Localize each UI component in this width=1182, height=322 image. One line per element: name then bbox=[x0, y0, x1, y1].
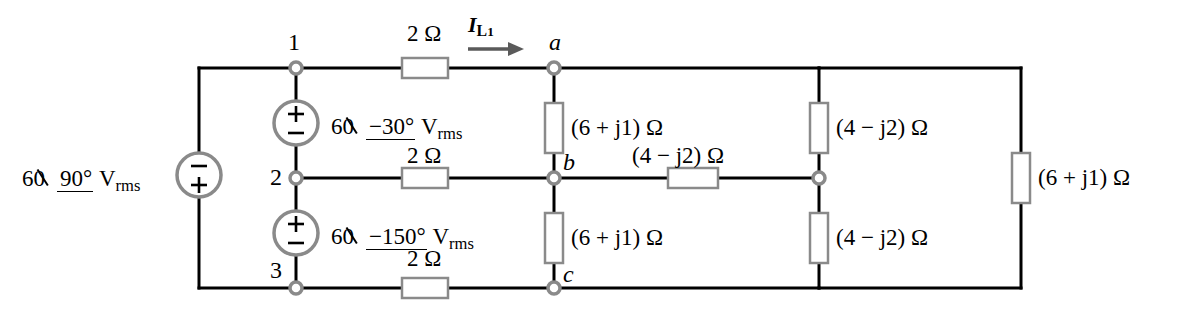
resistor-imp-far-right[interactable] bbox=[1012, 153, 1030, 203]
source-n12-angle: −30° bbox=[366, 115, 415, 140]
node-dot-c[interactable] bbox=[548, 282, 560, 294]
label-imp-far-right-text: (6 + j1) Ω bbox=[1038, 165, 1130, 190]
label-imp-right-bot-text: (4 − j2) Ω bbox=[836, 225, 928, 250]
resistor-imp-ab[interactable] bbox=[545, 103, 563, 153]
label-line-res-top-text: 2 Ω bbox=[407, 21, 441, 46]
label-imp-b-right-text: (4 − j2) Ω bbox=[632, 143, 724, 168]
label-line-res-mid: 2 Ω bbox=[407, 144, 441, 167]
source-n23-unit-sub: rms bbox=[449, 234, 474, 253]
source-n23-angle: −150° bbox=[366, 225, 427, 250]
current-arrow-il1 bbox=[468, 42, 524, 56]
label-imp-ab-text: (6 + j1) Ω bbox=[571, 115, 663, 140]
node-dot-1[interactable] bbox=[290, 62, 302, 74]
label-imp-bc-text: (6 + j1) Ω bbox=[571, 225, 663, 250]
source-n12-unit-sub: rms bbox=[438, 124, 463, 143]
angle-slash-icon-left bbox=[45, 163, 57, 186]
node-label-a: a bbox=[549, 30, 561, 54]
node-dot-right-mid[interactable] bbox=[813, 172, 825, 184]
current-arrow-head bbox=[508, 42, 524, 56]
node-dot-3[interactable] bbox=[290, 282, 302, 294]
node-label-b: b bbox=[563, 150, 575, 174]
label-source-left: 6090° Vrms bbox=[22, 163, 140, 194]
node-dot-2[interactable] bbox=[290, 172, 302, 184]
node-label-1: 1 bbox=[288, 30, 300, 54]
resistor-imp-right-bot[interactable] bbox=[810, 213, 828, 263]
node-label-c: c bbox=[563, 262, 574, 286]
source-n12-unit: V bbox=[421, 114, 438, 139]
node-label-2: 2 bbox=[270, 165, 282, 189]
source-left-unit-sub: rms bbox=[116, 176, 141, 195]
node-label-3: 3 bbox=[270, 258, 282, 282]
current-subscript2: 1 bbox=[487, 24, 494, 39]
angle-slash-icon-n12 bbox=[354, 111, 366, 134]
resistor-line-mid[interactable] bbox=[402, 168, 448, 188]
source-left-unit: V bbox=[99, 166, 116, 191]
label-source-n12: 60−30° Vrms bbox=[331, 111, 462, 142]
label-imp-right-top: (4 − j2) Ω bbox=[836, 116, 928, 139]
resistor-line-bot[interactable] bbox=[402, 278, 448, 298]
label-imp-ab: (6 + j1) Ω bbox=[571, 116, 663, 139]
circuit-diagram-canvas: 1 2 3 a b c 2 Ω 2 Ω 2 Ω IL1 6090° Vrms 6… bbox=[0, 0, 1182, 322]
wire-group bbox=[199, 68, 1021, 288]
label-line-res-top: 2 Ω bbox=[407, 22, 441, 45]
label-source-n23: 60−150° Vrms bbox=[331, 221, 474, 252]
angle-slash-icon-n23 bbox=[354, 221, 366, 244]
source-n23-unit: V bbox=[432, 224, 449, 249]
label-line-res-mid-text: 2 Ω bbox=[407, 143, 441, 168]
node-dot-b[interactable] bbox=[548, 172, 560, 184]
current-subscript: L bbox=[477, 22, 488, 39]
resistor-imp-bc[interactable] bbox=[545, 213, 563, 263]
resistor-line-top[interactable] bbox=[402, 58, 448, 78]
label-imp-far-right: (6 + j1) Ω bbox=[1038, 166, 1130, 189]
circuit-schematic-svg bbox=[0, 0, 1182, 322]
current-symbol: I bbox=[468, 12, 477, 37]
label-imp-bc: (6 + j1) Ω bbox=[571, 226, 663, 249]
source-left-angle: 90° bbox=[57, 167, 93, 192]
resistor-imp-b-right[interactable] bbox=[668, 168, 718, 188]
resistor-imp-right-top[interactable] bbox=[810, 103, 828, 153]
node-dot-a[interactable] bbox=[548, 62, 560, 74]
label-imp-b-right: (4 − j2) Ω bbox=[632, 144, 724, 167]
label-imp-right-bot: (4 − j2) Ω bbox=[836, 226, 928, 249]
label-current-il1: IL1 bbox=[468, 14, 494, 39]
label-imp-right-top-text: (4 − j2) Ω bbox=[836, 115, 928, 140]
